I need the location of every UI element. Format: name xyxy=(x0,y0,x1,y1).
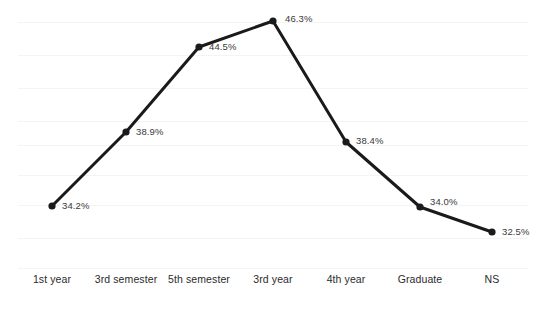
series-markers xyxy=(48,17,495,235)
x-axis-tick-label: NS xyxy=(485,272,500,286)
line-chart: 34.2%38.9%44.5%46.3%38.4%34.0%32.5% 1st … xyxy=(0,0,545,309)
data-point-marker[interactable] xyxy=(48,202,55,209)
data-point-marker[interactable] xyxy=(195,43,202,50)
x-axis-tick-label: 1st year xyxy=(33,272,71,286)
data-point-marker[interactable] xyxy=(342,138,349,145)
data-point-label: 46.3% xyxy=(285,14,312,24)
x-axis-tick-label: 5th semester xyxy=(168,272,230,286)
data-point-label: 44.5% xyxy=(209,42,236,52)
data-point-label: 34.0% xyxy=(430,197,457,207)
data-point-marker[interactable] xyxy=(416,203,423,210)
data-point-label: 32.5% xyxy=(502,227,529,237)
data-point-marker[interactable] xyxy=(488,228,495,235)
series-line xyxy=(52,21,492,232)
data-point-label: 34.2% xyxy=(62,201,89,211)
x-axis-tick-label: 3rd semester xyxy=(95,272,157,286)
x-axis: 1st year3rd semester5th semester3rd year… xyxy=(0,272,545,292)
plot-area: 34.2%38.9%44.5%46.3%38.4%34.0%32.5% xyxy=(0,0,545,268)
series-line-group xyxy=(0,0,545,268)
x-axis-tick-label: 4th year xyxy=(327,272,366,286)
x-axis-tick-label: Graduate xyxy=(398,272,443,286)
gridline xyxy=(18,268,528,269)
data-point-label: 38.4% xyxy=(356,136,383,146)
data-point-label: 38.9% xyxy=(136,127,163,137)
data-point-marker[interactable] xyxy=(122,128,129,135)
data-point-marker[interactable] xyxy=(269,17,276,24)
x-axis-tick-label: 3rd year xyxy=(253,272,292,286)
